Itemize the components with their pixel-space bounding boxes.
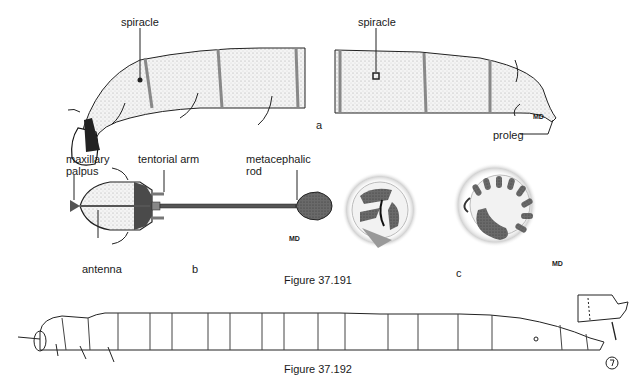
panel-letter-a: a [316,119,322,131]
panel-letter-b: b [192,263,198,275]
label-spiracle-left: spiracle [121,16,159,28]
label-antenna: antenna [82,263,122,275]
label-metacephalic-line2: rod [246,165,262,177]
label-md-b: MD [289,233,300,245]
proleg-crochets-drawing [342,163,537,248]
label-maxillary-palpus-line2: palpus [66,165,98,177]
caption-figure-37-191: Figure 37.191 [284,274,352,286]
label-md-a: MD [533,111,544,123]
label-spiracle-right: spiracle [358,16,396,28]
larva-posterior-drawing [335,28,556,134]
caption-figure-37-192: Figure 37.192 [284,363,352,375]
label-metacephalic-line1: metacephalic [246,153,311,165]
figure-artwork [0,0,636,389]
larva-anterior-drawing [68,28,305,165]
label-proleg: proleg [493,129,524,141]
label-tentorial-arm: tentorial arm [138,153,199,165]
larva-lateral-outline [18,295,628,369]
panel-letter-c: c [456,267,462,279]
label-md-c: MD [552,258,563,270]
label-maxillary-palpus-line1: maxillary [66,153,109,165]
